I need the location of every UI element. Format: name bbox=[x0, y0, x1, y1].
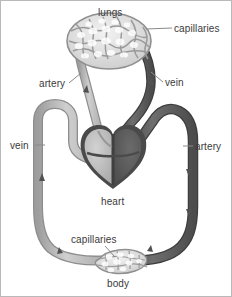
body-capillary-bed bbox=[95, 250, 147, 274]
leader-capillaries-top bbox=[146, 28, 172, 29]
label-artery-pulmonary: artery bbox=[39, 78, 65, 89]
label-vein-pulmonary: vein bbox=[165, 77, 184, 88]
arrow-artery-to-body bbox=[147, 245, 153, 252]
leader-artery-pulmonary bbox=[69, 73, 81, 83]
label-lungs: lungs bbox=[98, 7, 122, 18]
circulatory-system-diagram: lungs capillaries artery vein vein arter… bbox=[0, 0, 232, 297]
label-capillaries-body: capillaries bbox=[71, 234, 117, 245]
label-vein-systemic: vein bbox=[10, 140, 29, 151]
label-body: body bbox=[107, 278, 129, 289]
label-capillaries-lungs: capillaries bbox=[174, 23, 220, 34]
label-artery-systemic: artery bbox=[195, 141, 221, 152]
heart-organ bbox=[81, 125, 147, 189]
label-heart: heart bbox=[101, 196, 124, 207]
lungs-capillary-bed bbox=[67, 13, 151, 69]
